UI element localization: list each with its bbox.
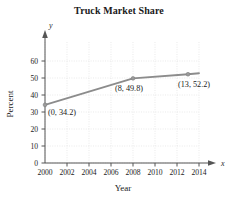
- y-tick-label-10: 10: [30, 142, 38, 151]
- chart-figure: Truck Market Share: [0, 0, 238, 199]
- line-chart-plot: y x 0 10 20 30 40 50 60 2000 2002 2004 2…: [0, 0, 238, 199]
- y-tick-label-20: 20: [30, 125, 38, 134]
- x-axis-variable-label: x: [220, 159, 225, 168]
- x-tick-label-2008: 2008: [125, 168, 140, 177]
- y-tick-label-0: 0: [34, 159, 38, 168]
- y-tick-label-50: 50: [30, 74, 38, 83]
- x-tick-label-2014: 2014: [191, 168, 206, 177]
- y-axis: [42, 30, 48, 163]
- data-point-marker-2: [186, 72, 190, 76]
- y-tick-label-30: 30: [30, 108, 38, 117]
- x-tick-label-2004: 2004: [81, 168, 96, 177]
- data-point-label-2: (13, 52.2): [178, 80, 210, 89]
- data-point-marker-0: [43, 103, 47, 107]
- y-tick-label-40: 40: [30, 91, 38, 100]
- y-axis-ticks: [42, 61, 46, 163]
- x-tick-label-2006: 2006: [103, 168, 118, 177]
- x-axis-title: Year: [115, 183, 132, 193]
- x-tick-label-2002: 2002: [59, 168, 74, 177]
- grid-vertical: [45, 42, 199, 163]
- y-axis-variable-label: y: [48, 21, 53, 30]
- data-point-label-1: (8, 49.8): [115, 84, 143, 93]
- y-tick-label-60: 60: [30, 57, 38, 66]
- x-axis: [45, 160, 216, 166]
- x-tick-label-2000: 2000: [37, 168, 52, 177]
- x-tick-label-2010: 2010: [147, 168, 162, 177]
- x-tick-label-2012: 2012: [169, 168, 184, 177]
- data-point-label-0: (0, 34.2): [48, 108, 76, 117]
- data-point-marker-1: [131, 76, 135, 80]
- y-axis-title: Percent: [5, 90, 15, 117]
- x-axis-ticks: [67, 163, 199, 167]
